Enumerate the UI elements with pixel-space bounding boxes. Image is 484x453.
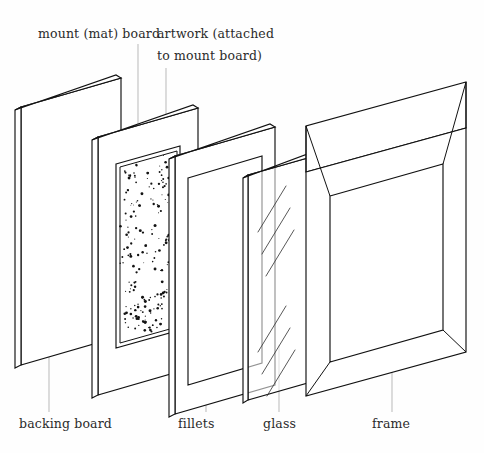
stipple-dot: [127, 227, 128, 228]
stipple-dot: [129, 255, 132, 258]
stipple-dot: [130, 215, 133, 218]
mount-board-thickness-edge: [92, 137, 98, 398]
stipple-dot: [119, 262, 121, 264]
stipple-dot: [149, 309, 152, 312]
stipple-dot: [146, 172, 149, 175]
stipple-dot: [159, 171, 161, 173]
stipple-dot: [160, 305, 161, 306]
stipple-dot: [125, 219, 126, 220]
diagram-root: mount (mat) board artwork (attached to m…: [0, 0, 484, 453]
stipple-dot: [158, 212, 159, 213]
label-frame: frame: [372, 416, 410, 431]
stipple-dot: [122, 262, 123, 263]
stipple-dot: [154, 296, 156, 298]
stipple-dot: [165, 183, 167, 185]
stipple-dot: [123, 248, 125, 250]
stipple-dot: [127, 231, 129, 233]
stipple-dot: [126, 246, 129, 249]
stipple-dot: [125, 322, 126, 323]
stipple-dot: [138, 204, 141, 207]
stipple-dot: [129, 253, 131, 255]
stipple-dot: [162, 181, 164, 183]
stipple-dot: [129, 291, 131, 293]
picture-frame-exploded-diagram: mount (mat) board artwork (attached to m…: [0, 0, 484, 453]
stipple-dot: [154, 224, 157, 227]
stipple-dot: [166, 166, 169, 169]
stipple-dot: [155, 251, 157, 253]
stipple-dot: [135, 215, 137, 217]
stipple-dot: [166, 292, 168, 294]
labels-top: mount (mat) board artwork (attached to m…: [38, 26, 274, 63]
stipple-dot: [144, 329, 147, 332]
stipple-dot: [145, 320, 146, 321]
label-backing-board: backing board: [19, 416, 112, 431]
label-glass: glass: [263, 416, 296, 431]
stipple-dot: [128, 281, 129, 282]
stipple-dot: [141, 192, 144, 195]
stipple-dot: [160, 210, 162, 212]
labels-bottom: backing board fillets glass frame: [19, 416, 410, 431]
stipple-dot: [124, 170, 126, 172]
stipple-dot: [153, 257, 155, 259]
stipple-dot: [163, 155, 164, 156]
stipple-dot: [132, 317, 133, 318]
stipple-dot: [144, 305, 147, 308]
stipple-dot: [138, 325, 139, 326]
stipple-dot: [149, 327, 151, 329]
stipple-dot: [142, 320, 143, 321]
stipple-dot: [134, 285, 136, 287]
stipple-dot: [151, 233, 153, 235]
stipple-dot: [165, 241, 168, 244]
stipple-dot: [132, 265, 135, 268]
stipple-dot: [156, 327, 158, 329]
stipple-dot: [129, 176, 130, 177]
stipple-dot: [165, 240, 167, 242]
stipple-dot: [140, 310, 141, 311]
stipple-dot: [163, 244, 165, 246]
stipple-dot: [127, 189, 129, 191]
stipple-dot: [161, 174, 163, 176]
stipple-dot: [137, 306, 140, 309]
stipple-dot: [153, 203, 155, 205]
stipple-dot: [137, 316, 140, 319]
stipple-dot: [166, 289, 167, 290]
stipple-dot: [153, 308, 154, 309]
stipple-dot: [130, 242, 132, 244]
stipple-dot: [119, 225, 122, 228]
stipple-dot: [144, 300, 147, 303]
stipple-dot: [150, 183, 152, 185]
stipple-dot: [135, 164, 137, 166]
label-artwork-line1: artwork (attached: [157, 26, 274, 41]
stipple-dot: [161, 308, 163, 310]
stipple-dot: [142, 311, 144, 313]
stipple-dot: [130, 308, 131, 309]
stipple-dot: [130, 284, 132, 286]
stipple-dot: [162, 178, 164, 180]
stipple-dot: [139, 229, 142, 232]
stipple-dot: [131, 203, 132, 204]
stipple-dot: [146, 252, 147, 253]
stipple-dot: [163, 296, 165, 298]
frame-opening: [330, 164, 443, 362]
stipple-dot: [135, 181, 137, 183]
stipple-dot: [124, 318, 126, 320]
stipple-dot: [150, 312, 151, 313]
stipple-dot: [152, 261, 154, 263]
stipple-dot: [134, 239, 135, 240]
stipple-dot: [150, 198, 151, 199]
stipple-dot: [135, 315, 138, 318]
stipple-dot: [130, 313, 133, 316]
stipple-dot: [161, 180, 162, 181]
component-frame: [306, 82, 466, 396]
stipple-dot: [134, 305, 136, 307]
stipple-dot: [125, 233, 128, 236]
stipple-dot: [135, 227, 137, 229]
stipple-dot: [157, 204, 158, 205]
stipple-dot: [164, 161, 167, 164]
stipple-dot: [138, 268, 140, 270]
stipple-dot: [158, 238, 159, 239]
stipple-dot: [149, 186, 150, 187]
stipple-dot: [158, 183, 160, 185]
stipple-dot: [162, 186, 164, 188]
stipple-dot: [133, 289, 135, 291]
